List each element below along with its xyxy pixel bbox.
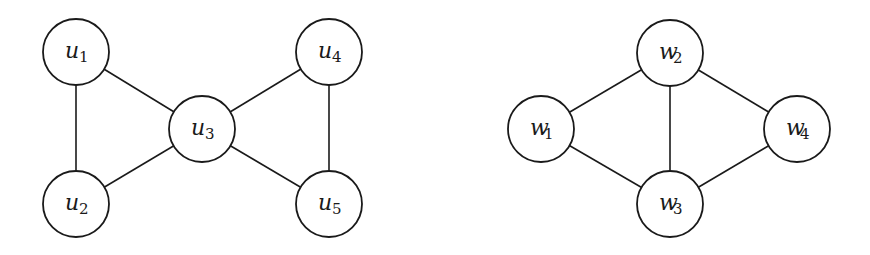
node-u2: u2 bbox=[43, 171, 109, 237]
node-subscript: 3 bbox=[673, 200, 683, 218]
node-w1: w1 bbox=[508, 96, 574, 162]
node-subscript: 3 bbox=[205, 125, 215, 143]
node-label: u bbox=[65, 190, 79, 215]
node-label: u bbox=[318, 38, 332, 63]
node-w4: w4 bbox=[764, 96, 830, 162]
node-label: u bbox=[318, 190, 332, 215]
node-subscript: 2 bbox=[79, 200, 89, 218]
node-subscript: 1 bbox=[79, 48, 89, 66]
node-w3: w3 bbox=[637, 171, 703, 237]
node-subscript: 4 bbox=[800, 125, 810, 143]
node-label: u bbox=[191, 115, 205, 140]
node-subscript: 1 bbox=[544, 125, 554, 143]
nodes-layer: u1u2u3u4u5w1w2w3w4 bbox=[43, 19, 830, 237]
node-subscript: 5 bbox=[332, 200, 342, 218]
node-label: u bbox=[65, 38, 79, 63]
node-subscript: 4 bbox=[332, 48, 342, 66]
node-u5: u5 bbox=[296, 171, 362, 237]
node-subscript: 2 bbox=[673, 49, 683, 67]
node-u3: u3 bbox=[169, 96, 235, 162]
node-w2: w2 bbox=[637, 20, 703, 86]
graph-diagram: u1u2u3u4u5w1w2w3w4 bbox=[0, 0, 870, 255]
node-u1: u1 bbox=[43, 19, 109, 85]
node-u4: u4 bbox=[296, 19, 362, 85]
